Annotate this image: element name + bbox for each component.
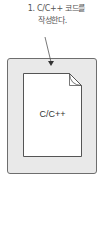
source-file-document: C/C++ [23,73,82,157]
document-label: C/C++ [23,109,82,119]
